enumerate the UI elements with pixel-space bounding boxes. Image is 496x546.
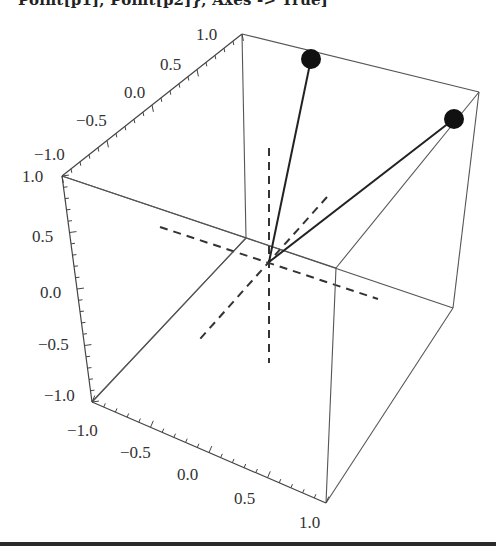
bottom-divider <box>0 542 496 546</box>
origin-axes <box>160 148 378 363</box>
bottom-axis-labels: −1.0 −0.5 0.0 0.5 1.0 <box>67 421 320 532</box>
tick-label: −0.5 <box>120 443 151 462</box>
tick-label: 0.5 <box>160 55 181 74</box>
tick-label: −1.0 <box>34 145 65 164</box>
tick-label: −0.5 <box>76 111 107 130</box>
y-origin-axis <box>200 197 327 339</box>
tick-label: −1.0 <box>44 386 75 405</box>
vector-p1 <box>269 59 311 262</box>
left-axis-edge <box>62 175 99 402</box>
tick-label: 0.5 <box>234 489 255 508</box>
point-p1 <box>301 49 321 69</box>
tick-label: 0.0 <box>40 283 61 302</box>
tick-label: 0.5 <box>32 227 53 246</box>
tick-label: 1.0 <box>196 25 217 44</box>
tick-label: 1.0 <box>22 167 43 186</box>
box-back-edges <box>62 34 453 402</box>
box-front-edges <box>62 34 479 503</box>
tick-label: −1.0 <box>67 421 98 440</box>
points <box>301 49 464 129</box>
tick-label: 1.0 <box>299 513 320 532</box>
3d-plot[interactable]: 1.0 0.5 0.0 −0.5 −1.0 1.0 0.5 0.0 −0.5 −… <box>0 0 496 546</box>
point-p2 <box>444 109 464 129</box>
tick-label: 0.0 <box>177 465 198 484</box>
top-axis-edge <box>62 34 243 183</box>
tick-label: −0.5 <box>38 335 69 354</box>
left-axis-labels: 1.0 0.5 0.0 −0.5 −1.0 <box>22 167 75 405</box>
tick-label: 0.0 <box>124 83 145 102</box>
vector-p2 <box>269 119 454 262</box>
top-axis-labels: 1.0 0.5 0.0 −0.5 −1.0 <box>34 25 217 164</box>
